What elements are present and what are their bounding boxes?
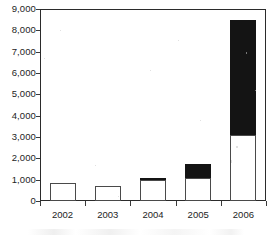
- x-axis-tick-label: 2003: [85, 210, 130, 220]
- y-axis-tick-mark: [36, 9, 40, 10]
- scan-speck: [118, 196, 119, 197]
- bar-segment-lower: [50, 183, 76, 201]
- scan-smudge: [28, 229, 244, 235]
- y-axis-tick-mark: [36, 30, 40, 31]
- bar-segment-lower: [185, 178, 211, 201]
- y-axis-tick-label: 8,000: [0, 25, 36, 35]
- bar-2002: [50, 183, 76, 201]
- scan-speck: [95, 165, 96, 166]
- bar-segment-lower: [230, 135, 256, 201]
- bar-segment-lower: [140, 180, 166, 201]
- y-axis-tick-label: 6,000: [0, 68, 36, 78]
- y-axis-tick-mark: [36, 73, 40, 74]
- scan-speck: [44, 58, 45, 59]
- bar-2005: [185, 164, 211, 201]
- y-axis-tick-mark: [36, 52, 40, 53]
- scan-speck: [20, 118, 21, 119]
- y-axis-tick-label: 0: [0, 196, 36, 206]
- x-axis-tick-label: 2002: [40, 210, 85, 220]
- x-axis-tick-mark: [176, 201, 177, 206]
- y-axis-tick-label: 3,000: [0, 132, 36, 142]
- bar-segment-upper: [230, 20, 256, 135]
- scan-speck: [150, 70, 151, 71]
- scan-speck: [200, 120, 201, 121]
- bar-segment-upper: [185, 164, 211, 178]
- bar-segment-lower: [95, 186, 121, 201]
- y-axis-tick-mark: [36, 158, 40, 159]
- x-axis-tick-mark: [221, 201, 222, 206]
- scan-speck: [178, 40, 179, 41]
- scan-speck: [236, 146, 238, 148]
- bar-2004: [140, 178, 166, 201]
- y-axis-tick-label: 2,000: [0, 153, 36, 163]
- scan-speck: [255, 90, 256, 91]
- y-axis-tick-label: 1,000: [0, 175, 36, 185]
- y-axis-tick-mark: [36, 94, 40, 95]
- x-axis-tick-mark: [266, 201, 267, 206]
- bar-2006: [230, 20, 256, 201]
- x-axis-tick-label: 2006: [221, 210, 266, 220]
- x-axis-tick-mark: [130, 201, 131, 206]
- y-axis-tick-mark: [36, 180, 40, 181]
- y-axis-tick-label: 9,000: [0, 4, 36, 14]
- scan-speck: [60, 30, 61, 31]
- y-axis-tick-mark: [36, 137, 40, 138]
- x-axis-tick-mark: [85, 201, 86, 206]
- y-axis-tick-label: 7,000: [0, 47, 36, 57]
- bar-2003: [95, 186, 121, 201]
- y-axis-tick-mark: [36, 116, 40, 117]
- scan-speck: [231, 160, 232, 163]
- scan-speck: [246, 52, 247, 54]
- y-axis-tick-label: 5,000: [0, 89, 36, 99]
- x-axis-tick-mark: [40, 201, 41, 206]
- x-axis-tick-label: 2005: [176, 210, 221, 220]
- x-axis-tick-label: 2004: [130, 210, 175, 220]
- y-axis-tick-label: 4,000: [0, 111, 36, 121]
- bar-chart: 9,0008,0007,0006,0005,0004,0003,0002,000…: [0, 0, 272, 239]
